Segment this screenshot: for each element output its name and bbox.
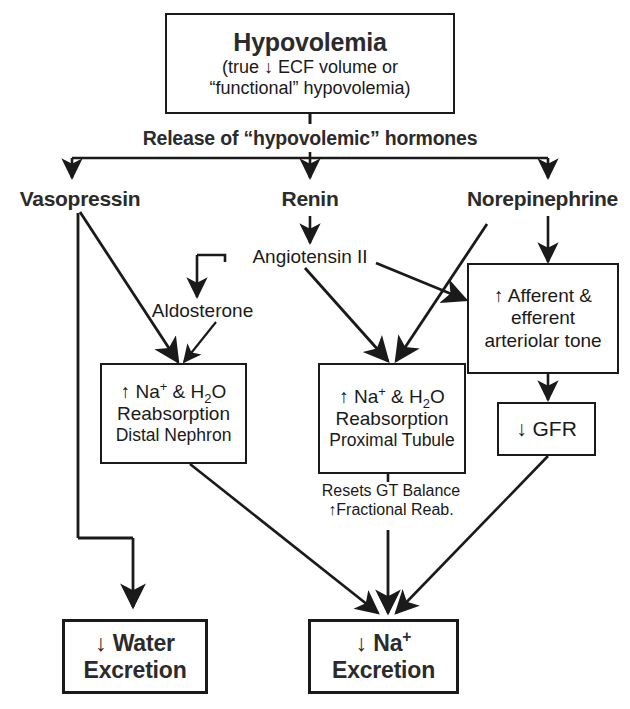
aldosterone-label: Aldosterone <box>152 300 253 322</box>
angiotensin-label: Angiotensin II <box>252 246 367 268</box>
hypovolemia-subtitle-line2: “functional” hypovolemia) <box>209 78 410 99</box>
flowchart-canvas: Hypovolemia (true ↓ ECF volume or “funct… <box>0 0 630 709</box>
hormone-release-label: Release of “hypovolemic” hormones <box>143 127 478 150</box>
gfr-label: ↓ GFR <box>516 417 577 441</box>
proximal-line1: ↑ Na+ & H2O <box>339 386 445 408</box>
sodium-excretion-line2: Excretion <box>332 657 435 684</box>
node-hypovolemia: Hypovolemia (true ↓ ECF volume or “funct… <box>165 13 455 114</box>
node-proximal-reabsorption: ↑ Na+ & H2O Reabsorption Proximal Tubule <box>318 363 466 474</box>
node-angiotensin-ii: Angiotensin II <box>235 244 385 270</box>
node-renin: Renin <box>255 185 365 213</box>
node-sodium-excretion: ↓ Na+ Excretion <box>308 619 459 694</box>
hypovolemia-title: Hypovolemia <box>233 28 386 57</box>
node-vasopressin: Vasopressin <box>5 185 155 213</box>
note-line2: ↑Fractional Reab. <box>328 501 453 520</box>
distal-line3: Distal Nephron <box>116 425 232 445</box>
vasopressin-label: Vasopressin <box>20 187 140 211</box>
hypovolemia-subtitle-line1: (true ↓ ECF volume or <box>222 57 398 78</box>
proximal-line2: Reabsorption <box>335 408 448 430</box>
arteriolar-line3: arteriolar tone <box>484 330 601 352</box>
distal-line1: ↑ Na+ & H2O <box>121 381 227 403</box>
arteriolar-line1: ↑ Afferent & <box>494 285 592 307</box>
proximal-line3: Proximal Tubule <box>329 430 454 450</box>
water-excretion-line1: ↓ Water <box>95 630 175 657</box>
node-norepinephrine: Norepinephrine <box>455 185 630 213</box>
water-excretion-line2: Excretion <box>83 657 186 684</box>
renin-label: Renin <box>282 187 339 211</box>
node-gfr: ↓ GFR <box>497 402 596 456</box>
sodium-excretion-line1: ↓ Na+ <box>356 630 411 657</box>
distal-line2: Reabsorption <box>117 403 230 425</box>
node-hormone-release-banner: Release of “hypovolemic” hormones <box>110 125 510 151</box>
node-water-excretion: ↓ Water Excretion <box>62 619 208 694</box>
node-distal-reabsorption: ↑ Na+ & H2O Reabsorption Distal Nephron <box>100 363 247 464</box>
norepinephrine-label: Norepinephrine <box>467 187 618 211</box>
node-arteriolar-tone: ↑ Afferent & efferent arteriolar tone <box>467 263 619 374</box>
note-gt-balance: Resets GT Balance ↑Fractional Reab. <box>296 482 486 530</box>
note-line1: Resets GT Balance <box>322 482 460 501</box>
node-aldosterone: Aldosterone <box>135 298 270 324</box>
arteriolar-line2: efferent <box>511 307 575 329</box>
